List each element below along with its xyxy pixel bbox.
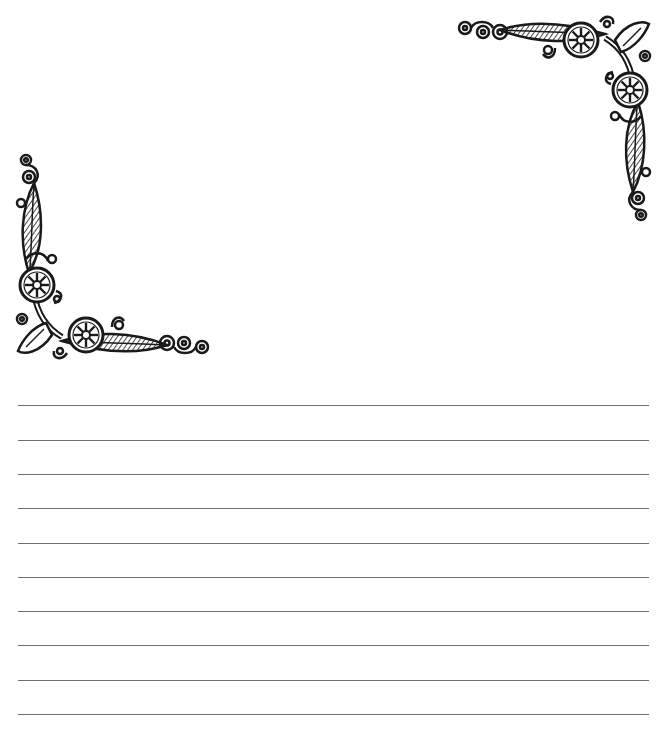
writing-line [18,714,649,715]
bottom-left-corner-ornament [12,153,212,363]
writing-line [18,645,649,646]
writing-line [18,405,649,406]
writing-line [18,440,649,441]
floral-ornament-icon [12,153,212,363]
floral-ornament-icon [455,12,655,222]
writing-line [18,577,649,578]
writing-line [18,611,649,612]
writing-line [18,680,649,681]
writing-line [18,508,649,509]
writing-line [18,474,649,475]
top-right-corner-ornament [455,12,655,222]
stationery-page [0,0,665,740]
writing-line [18,543,649,544]
